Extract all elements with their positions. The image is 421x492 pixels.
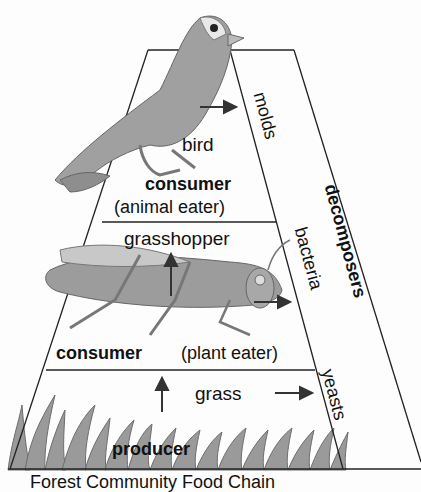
grasshopper-label: grasshopper <box>124 229 230 248</box>
diagram-caption: Forest Community Food Chain <box>30 473 275 491</box>
middle-consumer-label: consumer <box>56 344 142 362</box>
energy-arrows <box>156 101 312 412</box>
middle-consumer-detail: (plant eater) <box>181 344 278 362</box>
bird-label: bird <box>182 135 214 154</box>
top-consumer-label: consumer <box>145 175 231 193</box>
bird-illustration <box>55 16 244 192</box>
producer-label: producer <box>112 440 190 458</box>
grass-label: grass <box>195 384 241 403</box>
grasshopper-illustration <box>46 240 290 335</box>
top-consumer-detail: (animal eater) <box>114 198 225 216</box>
